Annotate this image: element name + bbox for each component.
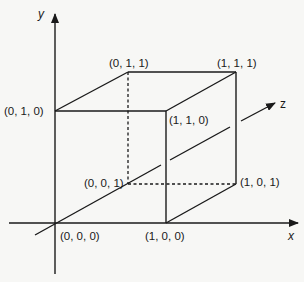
vertex-label-000: (0, 0, 0) [60, 230, 100, 242]
x-axis-label: x [287, 229, 295, 243]
z-axis-label: z [280, 97, 286, 111]
cube-hidden-edges [128, 72, 236, 184]
vertex-label-100: (1, 0, 0) [145, 230, 185, 242]
vertex-label-011: (0, 1, 1) [109, 57, 149, 69]
y-axis-label: y [37, 7, 45, 21]
vertex-label-111: (1, 1, 1) [217, 57, 257, 69]
vertex-label-010: (0, 1, 0) [4, 105, 44, 117]
vertex-label-110: (1, 1, 0) [169, 114, 209, 126]
vertex-label-001: (0, 0, 1) [84, 177, 124, 189]
z-axis [35, 103, 275, 235]
cube-edges [55, 72, 236, 223]
vertex-label-101: (1, 0, 1) [240, 176, 280, 188]
unit-cube-diagram: y x z (0, 0, 0) (1, 0, 0) (0, 1, 0) (0, … [0, 0, 304, 282]
